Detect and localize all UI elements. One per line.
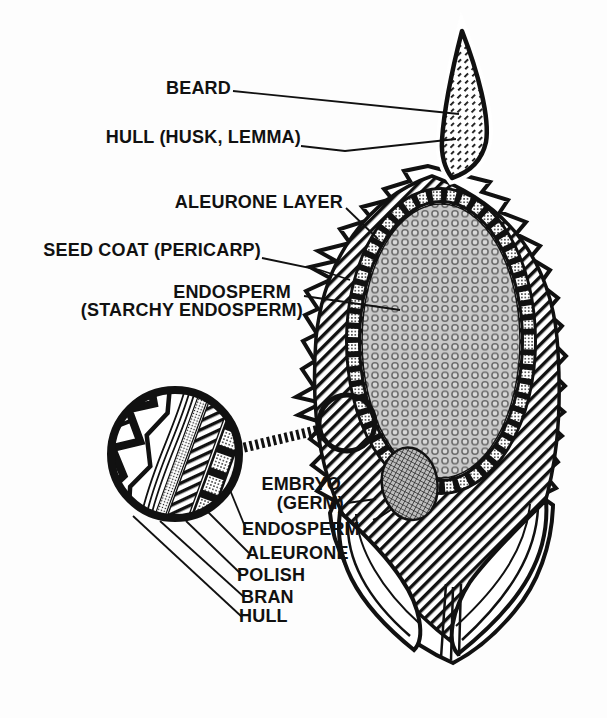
label-inset-hull: HULL <box>239 607 288 626</box>
label-inset-polish: POLISH <box>237 566 305 585</box>
label-seed-coat: SEED COAT (PERICARP) <box>43 241 261 260</box>
leader-inset-bran <box>160 521 244 597</box>
leader-beard <box>233 91 459 114</box>
label-embryo-line1: EMBRYO <box>261 475 341 494</box>
label-inset-bran: BRAN <box>241 588 294 607</box>
endosperm-body <box>362 204 520 478</box>
leader-inset-hull <box>133 516 242 617</box>
beard-shape <box>442 31 487 178</box>
grain-kernel-diagram: BEARD HULL (HUSK, LEMMA) ALEURONE LAYER … <box>0 0 607 718</box>
kernel-body <box>296 31 566 663</box>
label-aleurone-layer: ALEURONE LAYER <box>175 193 343 212</box>
label-inset-endosperm: ENDOSPERM <box>242 520 360 539</box>
label-hull-husk-lemma: HULL (HUSK, LEMMA) <box>106 128 301 147</box>
label-endosperm-line2: (STARCHY ENDOSPERM) <box>81 301 303 320</box>
leader-inset-polish <box>186 521 241 574</box>
kernel-artwork <box>0 0 607 718</box>
label-embryo-line2: (GERM) <box>277 494 344 513</box>
label-inset-aleurone: ALEURONE <box>246 544 349 563</box>
label-beard: BEARD <box>166 79 231 98</box>
leader-hull-top <box>301 139 456 151</box>
